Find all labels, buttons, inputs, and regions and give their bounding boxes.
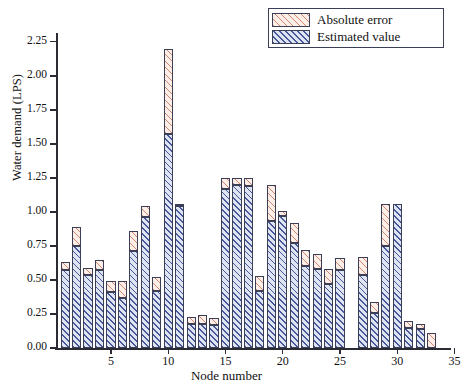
legend-item-absolute-error: Absolute error (272, 11, 440, 28)
bar-node-21 (290, 223, 299, 348)
x-axis-tick-label: 30 (384, 354, 410, 369)
bar-node-2 (72, 227, 81, 348)
bar-node-23 (313, 254, 322, 348)
legend-swatch-absolute-error (272, 13, 310, 27)
bar-segment-absolute-error (244, 178, 253, 186)
bar-segment-estimated-value (95, 270, 104, 348)
bar-node-6 (118, 281, 127, 348)
bar-segment-estimated-value (106, 292, 115, 348)
bar-segment-estimated-value (313, 269, 322, 348)
bar-segment-estimated-value (187, 324, 196, 348)
bar-segment-absolute-error (232, 178, 241, 185)
bar-segment-estimated-value (381, 246, 390, 348)
bar-segment-estimated-value (404, 328, 413, 348)
bar-segment-absolute-error (129, 231, 138, 251)
bar-segment-estimated-value (267, 221, 276, 348)
x-axis-tick-label: 20 (270, 354, 296, 369)
bar-segment-absolute-error (255, 276, 264, 291)
x-axis-tick-label: 15 (213, 354, 239, 369)
bar-node-33 (427, 333, 436, 348)
bar-segment-absolute-error (301, 250, 310, 266)
bar-segment-absolute-error (83, 268, 92, 275)
bar-node-16 (232, 178, 241, 348)
x-axis-tick-label: 5 (98, 354, 124, 369)
bar-node-1 (61, 262, 70, 348)
bar-segment-absolute-error (152, 277, 161, 291)
bar-node-30 (393, 204, 402, 348)
bar-segment-estimated-value (61, 270, 70, 348)
bar-segment-absolute-error (313, 254, 322, 269)
y-axis-tick-label: 0.75 (0, 238, 47, 250)
bar-segment-absolute-error (209, 318, 218, 325)
bar-node-5 (106, 281, 115, 348)
bar-node-9 (152, 277, 161, 348)
bar-segment-estimated-value (358, 275, 367, 348)
bar-node-11 (175, 204, 184, 348)
bar-segment-absolute-error (427, 333, 436, 348)
x-axis-tick-label: 35 (442, 354, 465, 369)
bar-segment-estimated-value (232, 185, 241, 348)
y-axis-title: Water demand (LPS) (10, 43, 25, 213)
x-axis-line (55, 348, 451, 350)
bar-segment-absolute-error (381, 204, 390, 246)
bar-node-15 (221, 178, 230, 348)
bar-node-20 (278, 211, 287, 348)
bar-segment-estimated-value (198, 324, 207, 348)
bar-segment-absolute-error (95, 260, 104, 271)
bar-segment-estimated-value (209, 325, 218, 348)
x-axis-tick-label: 25 (327, 354, 353, 369)
bar-node-24 (324, 269, 333, 348)
bar-segment-absolute-error (324, 269, 333, 284)
bar-node-31 (404, 321, 413, 348)
y-axis-tick-label: 0.25 (0, 306, 47, 318)
legend-label-absolute-error: Absolute error (317, 12, 392, 28)
bar-node-7 (129, 231, 138, 348)
bar-node-4 (95, 260, 104, 348)
bar-node-28 (370, 302, 379, 348)
bar-segment-estimated-value (301, 266, 310, 348)
bar-segment-absolute-error (187, 317, 196, 324)
bar-segment-estimated-value (324, 284, 333, 348)
bar-segment-absolute-error (416, 324, 425, 329)
bar-segment-absolute-error (141, 206, 150, 217)
bar-node-13 (198, 315, 207, 348)
bar-segment-absolute-error (370, 302, 379, 313)
bar-node-14 (209, 318, 218, 348)
bar-segment-estimated-value (335, 270, 344, 348)
y-axis-tick-label: 0.00 (0, 340, 47, 352)
bar-node-12 (187, 317, 196, 348)
bar-segment-estimated-value (83, 275, 92, 348)
bar-node-32 (416, 324, 425, 348)
bar-segment-absolute-error (290, 223, 299, 243)
bar-node-3 (83, 268, 92, 348)
x-axis-title: Node number (0, 368, 453, 384)
bar-segment-absolute-error (164, 49, 173, 135)
y-axis-tick-label: 0.50 (0, 272, 47, 284)
bar-segment-absolute-error (221, 178, 230, 189)
bar-segment-estimated-value (72, 246, 81, 348)
bar-segment-estimated-value (152, 291, 161, 348)
bar-segment-absolute-error (106, 281, 115, 292)
bar-node-19 (267, 185, 276, 348)
bar-segment-estimated-value (129, 251, 138, 348)
bar-node-25 (335, 258, 344, 348)
bar-segment-absolute-error (118, 281, 127, 297)
plot-area (56, 35, 450, 348)
bar-segment-absolute-error (198, 315, 207, 323)
bar-segment-estimated-value (118, 298, 127, 348)
bar-segment-absolute-error (358, 257, 367, 275)
bar-segment-estimated-value (370, 313, 379, 348)
bar-node-29 (381, 204, 390, 348)
bar-segment-absolute-error (61, 262, 70, 270)
bar-segment-estimated-value (221, 189, 230, 348)
bar-node-17 (244, 178, 253, 348)
bar-segment-estimated-value (244, 186, 253, 348)
bar-segment-estimated-value (141, 217, 150, 348)
bar-segment-estimated-value (290, 243, 299, 348)
bar-node-10 (164, 49, 173, 348)
bar-segment-estimated-value (416, 329, 425, 348)
bar-segment-estimated-value (278, 216, 287, 348)
bar-node-27 (358, 257, 367, 348)
x-axis-tick-label: 10 (155, 354, 181, 369)
